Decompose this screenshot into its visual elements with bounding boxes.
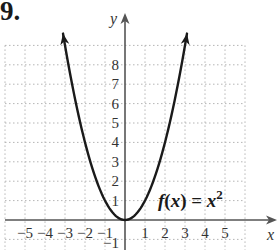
function-label: f(x) = x2 xyxy=(158,187,223,212)
y-axis-label: y xyxy=(108,10,118,28)
y-tick-label: 2 xyxy=(112,173,120,189)
y-tick-label: 7 xyxy=(112,76,120,92)
x-tick-label: 5 xyxy=(221,225,229,241)
y-tick-label: 6 xyxy=(112,96,120,112)
function-label-exponent: 2 xyxy=(216,187,223,202)
y-tick-label: 8 xyxy=(112,57,120,73)
y-tick-label: 4 xyxy=(112,134,120,150)
parabola-chart: −5−4−3−2−112345−112345678 y x f(x) = x2 xyxy=(0,0,278,251)
function-label-x: x xyxy=(170,190,181,211)
x-tick-label: 3 xyxy=(181,225,189,241)
x-tick-label: 2 xyxy=(161,225,169,241)
axes xyxy=(5,13,277,250)
x-tick-label: −2 xyxy=(77,225,93,241)
y-tick-label: 5 xyxy=(112,115,120,131)
x-tick-label: 4 xyxy=(201,225,209,241)
y-tick-label: −1 xyxy=(103,235,119,251)
x-axis-label: x xyxy=(266,226,274,243)
x-tick-label: 1 xyxy=(141,225,149,241)
y-tick-label: 1 xyxy=(112,193,120,209)
function-label-x2: x xyxy=(206,190,217,211)
y-tick-label: 3 xyxy=(112,154,120,170)
function-label-equals: ) = xyxy=(180,190,207,212)
tick-labels: −5−4−3−2−112345−112345678 xyxy=(17,57,229,251)
x-tick-label: −4 xyxy=(37,225,53,241)
x-tick-label: −3 xyxy=(57,225,73,241)
x-tick-label: −5 xyxy=(17,225,33,241)
